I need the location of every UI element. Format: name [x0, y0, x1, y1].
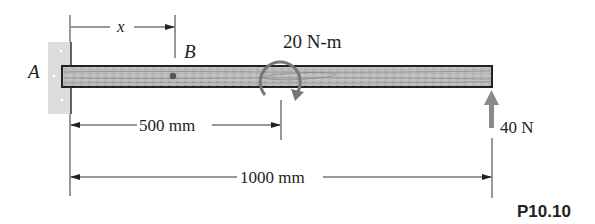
point-b-label: B: [184, 42, 196, 61]
force-arrow: [484, 90, 499, 128]
figure-id-label: P10.10: [517, 203, 571, 220]
moment-label: 20 N-m: [283, 32, 342, 51]
beam-diagram: x A B 20 N-m 40 N 500 mm 1000 mm P10.10: [0, 0, 595, 224]
beam: [62, 66, 492, 87]
dimension-500-label: 500 mm: [139, 117, 195, 134]
force-label: 40 N: [500, 119, 534, 136]
x-label: x: [117, 18, 125, 35]
dimension-1000-label: 1000 mm: [240, 169, 305, 186]
point-a-label: A: [28, 62, 40, 81]
